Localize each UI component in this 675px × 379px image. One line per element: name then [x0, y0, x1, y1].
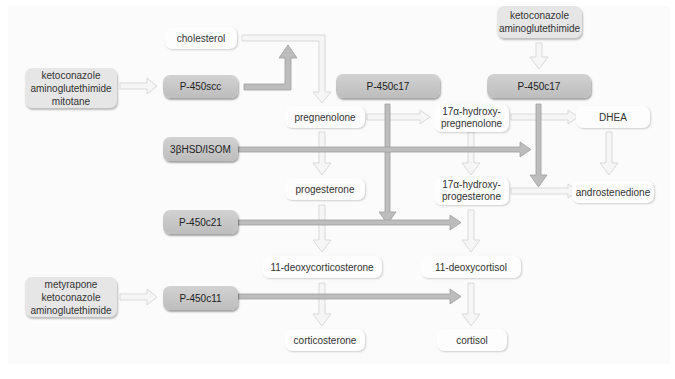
enzyme-p450c17-a: P-450c17: [336, 74, 440, 98]
arrow-17ohprog-andro: [511, 184, 578, 198]
substrate-11-deoxycortisol: 11-deoxycortisol: [421, 256, 521, 278]
arrow-c17a-down: [379, 104, 396, 224]
inhibitor-box-scc: ketoconazole aminoglutethimide mitotane: [25, 68, 117, 108]
enzyme-p450c11: P-450c11: [163, 286, 238, 310]
inhibitor-box-c17: ketoconazole aminoglutethimide: [497, 6, 582, 38]
inhibitor-box-c11: metyrapone ketoconazole aminoglutethimid…: [25, 277, 117, 317]
label-line-1: 17α-hydroxy-: [442, 179, 501, 191]
inhibitor-mitotane: mitotane: [52, 95, 90, 108]
arrow-scc-elbow: [244, 45, 297, 90]
substrate-androstenedione: androstenedione: [572, 181, 654, 203]
arrow-inhibitor-c17: [530, 43, 548, 69]
arrow-c11-right: [238, 289, 461, 304]
arrow-preg-prog: [313, 132, 331, 175]
inhibitor-metyrapone: metyrapone: [45, 278, 98, 291]
arrow-inhibitor-scc: [120, 78, 157, 94]
enzyme-p450scc: P-450scc: [163, 75, 238, 98]
substrate-dhea: DHEA: [576, 106, 650, 128]
inhibitor-ketoconazole: ketoconazole: [42, 69, 101, 82]
arrow-inhibitor-c11: [120, 289, 157, 305]
arrow-17ohpreg-17ohprog: [462, 132, 480, 175]
label-line-2: progesterone: [442, 191, 501, 203]
inhibitor-aminoglutethimide: aminoglutethimide: [30, 304, 111, 317]
substrate-17oh-pregnenolone: 17α-hydroxy- pregnenolone: [434, 104, 509, 132]
inhibitor-ketoconazole: ketoconazole: [510, 9, 569, 22]
substrate-pregnenolone: pregnenolone: [285, 106, 365, 128]
substrate-cholesterol: cholesterol: [165, 27, 237, 49]
substrate-17oh-progesterone: 17α-hydroxy- progesterone: [434, 177, 509, 205]
inhibitor-aminoglutethimide: aminoglutethimide: [30, 82, 111, 95]
inhibitor-aminoglutethimide: aminoglutethimide: [499, 22, 580, 35]
substrate-11-deoxycorticosterone: 11-deoxycorticosterone: [262, 256, 382, 278]
arrow-hsd-right: [238, 142, 531, 157]
arrow-17ohprog-11dc: [462, 210, 480, 252]
arrow-doc-cort: [313, 283, 331, 326]
substrate-progesterone: progesterone: [285, 178, 365, 200]
arrow-preg-17ohpreg: [367, 110, 430, 124]
arrow-17ohpreg-dhea: [511, 110, 578, 124]
arrow-c21-right: [238, 215, 461, 230]
arrow-prog-doc: [313, 205, 331, 252]
enzyme-p450c17-b: P-450c17: [487, 74, 591, 98]
substrate-cortisol: cortisol: [437, 329, 507, 351]
label-line-2: pregnenolone: [441, 118, 502, 130]
substrate-corticosterone: corticosterone: [285, 329, 365, 351]
enzyme-p450c21: P-450c21: [163, 210, 238, 234]
arrow-11dc-cortisol: [462, 283, 480, 326]
label-line-1: 17α-hydroxy-: [442, 106, 501, 118]
arrow-dhea-andro: [600, 132, 618, 175]
enzyme-3bhsd-isom: 3βHSD/ISOM: [163, 137, 238, 161]
inhibitor-ketoconazole: ketoconazole: [42, 291, 101, 304]
